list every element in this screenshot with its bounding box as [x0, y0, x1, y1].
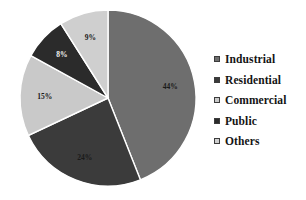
- legend-swatch-icon: [214, 97, 220, 103]
- legend-item-label: Others: [225, 135, 259, 147]
- pie-slice-label-public: 8%: [56, 50, 67, 59]
- legend-item-label: Industrial: [225, 53, 275, 65]
- chart-legend: IndustrialResidentialCommercialPublicOth…: [214, 49, 306, 153]
- pie-chart-figure: 44%24%15%8%9% IndustrialResidentialComme…: [0, 0, 306, 200]
- legend-item-commercial[interactable]: Commercial: [214, 90, 306, 111]
- pie-svg: 44%24%15%8%9%: [0, 0, 212, 200]
- pie-slice-label-residential: 24%: [77, 153, 92, 162]
- pie-slice-label-commercial: 15%: [37, 92, 52, 101]
- pie-slice-label-others: 9%: [85, 33, 96, 42]
- legend-swatch-icon: [214, 56, 220, 62]
- legend-swatch-icon: [214, 118, 220, 124]
- legend-item-public[interactable]: Public: [214, 111, 306, 132]
- legend-item-label: Residential: [225, 74, 281, 86]
- legend-swatch-icon: [214, 77, 220, 83]
- pie-plot-area: 44%24%15%8%9%: [0, 0, 212, 200]
- legend-item-label: Commercial: [225, 94, 286, 106]
- legend-item-residential[interactable]: Residential: [214, 70, 306, 91]
- pie-slice-label-industrial: 44%: [163, 82, 178, 91]
- legend-item-others[interactable]: Others: [214, 131, 306, 152]
- legend-item-industrial[interactable]: Industrial: [214, 49, 306, 70]
- legend-item-label: Public: [225, 115, 257, 127]
- legend-swatch-icon: [214, 138, 220, 144]
